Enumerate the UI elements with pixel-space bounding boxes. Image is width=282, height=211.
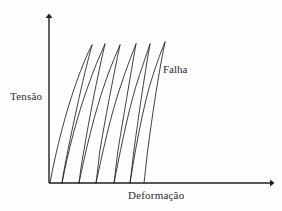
ciclo-5-unloading — [130, 44, 150, 183]
failure-annotation-label: Falha — [163, 63, 187, 75]
ciclo-3-loading — [79, 45, 120, 183]
ciclo-6-falha-loading — [130, 42, 165, 183]
x-axis-label: Deformação — [128, 189, 184, 201]
ciclo-1-loading — [50, 45, 92, 183]
stress-strain-figure: Tensão Deformação Falha — [0, 0, 282, 211]
cycle-curves-group — [50, 42, 165, 183]
y-axis-label: Tensão — [10, 90, 42, 102]
stress-strain-plot — [0, 0, 282, 211]
